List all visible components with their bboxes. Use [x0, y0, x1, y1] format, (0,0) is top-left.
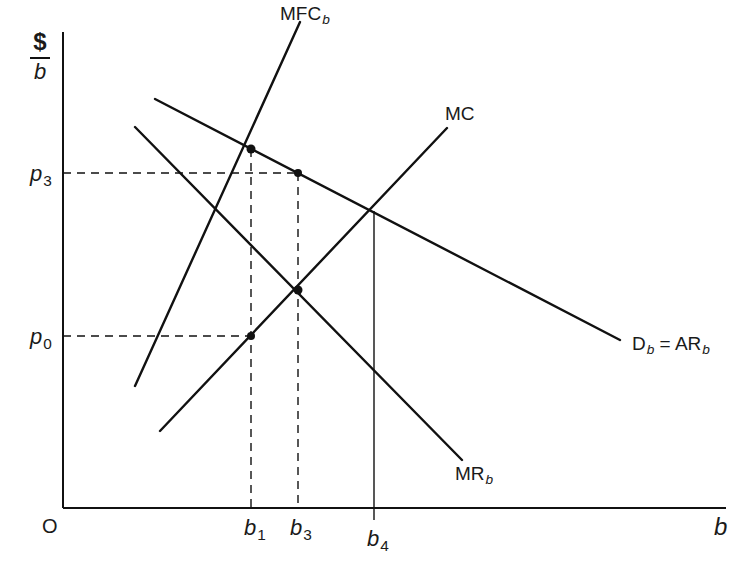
mc-label: MC: [445, 104, 475, 123]
mfc-curve: [135, 22, 300, 386]
economics-diagram: [0, 0, 754, 564]
y-axis-denominator: b: [28, 61, 52, 83]
point-mfc-demand: [247, 145, 256, 154]
b1-label: b1: [244, 517, 266, 539]
x-axis-label: b: [714, 515, 727, 539]
y-axis-label: $ b: [28, 30, 52, 83]
mr-label: MRb: [455, 464, 493, 483]
b3-label: b3: [290, 517, 312, 539]
b4-label: b4: [367, 528, 389, 550]
mfc-label: MFCb: [280, 4, 330, 23]
point-mc-mr: [294, 286, 303, 295]
demand-ar-label: Db = ARb: [632, 334, 710, 353]
y-axis-numerator: $: [28, 30, 52, 54]
p3-label: p3: [30, 163, 52, 185]
point-p0-mc: [247, 332, 255, 340]
p0-label: p0: [30, 326, 52, 348]
point-p3-demand: [294, 169, 302, 177]
origin-label: O: [42, 516, 58, 536]
